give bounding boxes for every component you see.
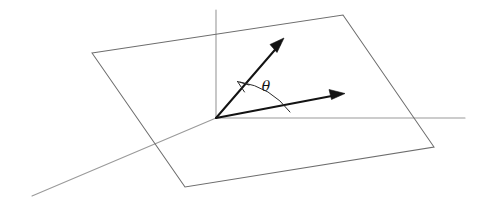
angle-label-theta: θ [262, 78, 271, 94]
diagram-canvas: θ [0, 0, 487, 209]
vector-angle-diagram: θ [0, 0, 487, 209]
